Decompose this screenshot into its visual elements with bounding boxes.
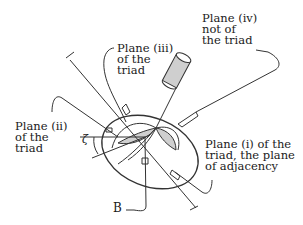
shaded-lobe-right — [156, 128, 176, 150]
label-plane-ii: Plane (ii) of the triad — [15, 121, 67, 154]
label-plane-i: Plane (i) of the triad, the plane of adj… — [205, 139, 295, 172]
leader-plane-iv — [196, 50, 279, 112]
axis-line-1-tick-top — [66, 52, 74, 58]
zeta-arc — [94, 137, 98, 154]
label-plane-iii: Plane (iii) of the triad — [117, 43, 173, 76]
adjacency-ellipse — [91, 102, 209, 203]
zeta-line-2 — [92, 135, 150, 158]
label-plane-iv: Plane (iv) not of the triad — [202, 13, 257, 46]
triad-planes-diagram: Plane (iii) of the triad Plane (iv) not … — [0, 0, 303, 225]
diagram-drawing — [0, 0, 303, 225]
label-zeta: ζ — [82, 134, 88, 145]
axis-line-1-tick-bottom — [190, 206, 198, 210]
label-b: B — [113, 203, 122, 214]
shaded-lobe-left — [118, 128, 156, 144]
plane-iv-arrow — [178, 112, 198, 127]
plane-iii-arrow — [122, 104, 130, 115]
